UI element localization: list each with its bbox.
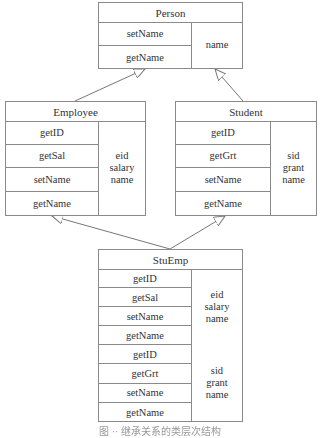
edge-employee-person — [75, 69, 145, 101]
edge-student-person — [215, 69, 243, 101]
figure-caption: 图 ·· 继承关系的类层次结构 — [0, 423, 320, 438]
method: getSal — [99, 288, 191, 307]
method: getName — [176, 192, 270, 216]
method: setName — [99, 307, 191, 326]
method: setName — [99, 384, 191, 403]
attribute: name — [206, 389, 229, 401]
attribute: name — [111, 174, 134, 186]
attribute: salary — [109, 162, 134, 174]
method: setName — [6, 168, 98, 192]
method: getID — [99, 345, 191, 364]
class-person: Person setName getName name — [98, 2, 243, 69]
attribute: grant — [206, 377, 228, 389]
method: setName — [176, 168, 270, 192]
attribute: sid — [287, 150, 299, 162]
attribute: sid — [211, 365, 223, 377]
attribute: name — [206, 39, 229, 51]
class-student: Student getID getGrt setName getName sid… — [175, 101, 317, 216]
method: getGrt — [99, 364, 191, 383]
class-name: Person — [99, 3, 242, 23]
attribute: name — [282, 174, 305, 186]
method: getName — [99, 403, 191, 422]
method: getGrt — [176, 145, 270, 169]
method: getName — [6, 192, 98, 216]
class-stuemp: StuEmp getID getSal setName getName getI… — [98, 249, 243, 422]
method: getID — [176, 121, 270, 145]
attribute: grant — [283, 162, 305, 174]
class-name: Employee — [6, 102, 145, 122]
method: getSal — [6, 145, 98, 169]
class-employee: Employee getID getSal setName getName ei… — [5, 101, 146, 216]
method: getID — [99, 269, 191, 288]
edge-stuemp-student — [170, 216, 225, 249]
class-name: Student — [176, 102, 316, 122]
method: getName — [99, 46, 191, 70]
attribute: eid — [116, 150, 129, 162]
edge-stuemp-employee — [52, 216, 170, 249]
attribute: eid — [211, 289, 224, 301]
method: setName — [99, 22, 191, 46]
method: getName — [99, 326, 191, 345]
method: getID — [6, 121, 98, 145]
attribute: salary — [204, 301, 229, 313]
class-name: StuEmp — [99, 250, 242, 270]
attribute: name — [206, 313, 229, 325]
